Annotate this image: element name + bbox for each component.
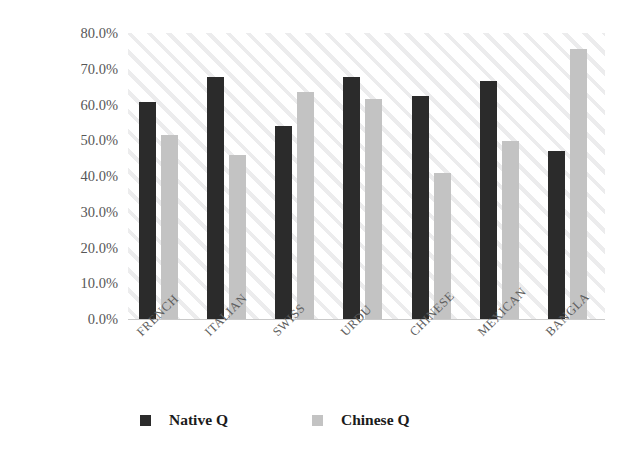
y-axis-tick-label: 10.0% <box>81 276 118 290</box>
bar-group <box>537 33 605 319</box>
bar-french-chinese-q <box>161 135 178 319</box>
bar-group <box>196 33 264 319</box>
legend-swatch-icon <box>312 415 323 426</box>
y-axis-tick-labels: 0.0%10.0%20.0%30.0%40.0%50.0%60.0%70.0%8… <box>48 33 124 319</box>
bar-swiss-native-q <box>275 126 292 319</box>
bar-french-native-q <box>139 102 156 319</box>
y-axis-tick-label: 80.0% <box>81 26 118 40</box>
y-axis-tick-label: 60.0% <box>81 98 118 112</box>
chart-legend: Native QChinese Q <box>128 406 590 434</box>
bar-group <box>332 33 400 319</box>
bar-group <box>264 33 332 319</box>
bar-bangla-chinese-q <box>570 49 587 319</box>
bar-urdu-native-q <box>343 77 360 319</box>
y-axis-tick-label: 0.0% <box>88 312 118 326</box>
x-axis-tick-labels: FRENCHITALIANSWISSURDUCHINESEMEXICANBANG… <box>128 321 605 391</box>
bar-group <box>401 33 469 319</box>
bar-chinese-native-q <box>412 96 429 319</box>
bar-swiss-chinese-q <box>297 92 314 319</box>
legend-label: Chinese Q <box>341 411 409 429</box>
y-axis-tick-label: 40.0% <box>81 169 118 183</box>
legend-item-chinese-q[interactable]: Chinese Q <box>312 411 409 429</box>
bar-mexican-native-q <box>480 81 497 319</box>
y-axis-tick-label: 20.0% <box>81 241 118 255</box>
legend-swatch-icon <box>140 415 151 426</box>
bar-italian-native-q <box>207 77 224 319</box>
bar-group <box>128 33 196 319</box>
bar-bangla-native-q <box>548 151 565 319</box>
plot-area <box>128 33 605 319</box>
bar-chart: Native Charger Choice 0.0%10.0%20.0%30.0… <box>0 0 641 453</box>
bar-group <box>469 33 537 319</box>
legend-label: Native Q <box>169 411 228 429</box>
y-axis-tick-label: 30.0% <box>81 205 118 219</box>
y-axis-tick-label: 50.0% <box>81 133 118 147</box>
bar-urdu-chinese-q <box>365 99 382 319</box>
y-axis-tick-label: 70.0% <box>81 62 118 76</box>
legend-item-native-q[interactable]: Native Q <box>140 411 228 429</box>
